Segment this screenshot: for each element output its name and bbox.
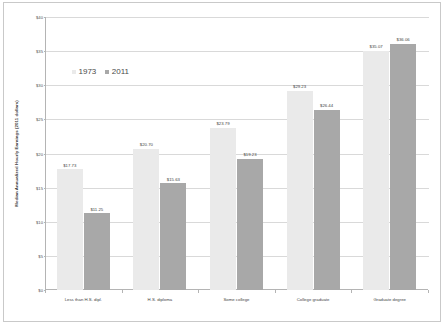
bar-groups: $17.73$11.25Less than H.S. dipl.$20.70$1… — [45, 17, 428, 290]
x-axis-tick-mark — [275, 290, 276, 293]
bar-1973[interactable] — [363, 51, 389, 290]
x-axis-tick-mark — [45, 290, 46, 293]
bar-1973[interactable] — [133, 149, 159, 290]
x-axis-category-label: College graduate — [275, 297, 352, 302]
bar-1973[interactable] — [57, 169, 83, 290]
x-axis-category-label: Some college — [198, 297, 275, 302]
y-axis-tick-label: $40 — [36, 15, 43, 20]
x-axis-category-label: Less than H.S. dipl. — [45, 297, 122, 302]
y-axis-tick-label: $10 — [36, 219, 43, 224]
bar-1973[interactable] — [210, 128, 236, 290]
y-axis-title: Median Annualized Hourly Earnings (2011 … — [14, 59, 19, 249]
bar-pair: $35.07$36.06 — [351, 17, 428, 290]
bar-column: $36.06 — [390, 17, 416, 290]
bar-value-label: $17.73 — [63, 163, 76, 168]
bar-2011[interactable] — [160, 183, 186, 290]
bar-pair: $20.70$15.63 — [122, 17, 199, 290]
bar-value-label: $29.23 — [293, 84, 306, 89]
y-axis-tick-label: $25 — [36, 117, 43, 122]
y-axis-tick-label: $15 — [36, 185, 43, 190]
bar-column: $35.07 — [363, 17, 389, 290]
bar-column: $20.70 — [133, 17, 159, 290]
bar-value-label: $26.44 — [320, 103, 333, 108]
bar-value-label: $23.79 — [216, 121, 229, 126]
bar-1973[interactable] — [287, 91, 313, 290]
legend-item-1973[interactable]: 1973 — [72, 67, 96, 76]
bar-group: $17.73$11.25Less than H.S. dipl. — [45, 17, 122, 290]
y-axis-tick-label: $0 — [38, 288, 43, 293]
bar-2011[interactable] — [237, 159, 263, 290]
legend-swatch-icon — [72, 70, 76, 74]
bar-2011[interactable] — [84, 213, 110, 290]
bar-column: $26.44 — [314, 17, 340, 290]
y-axis-tick-label: $5 — [38, 253, 43, 258]
bar-group: $20.70$15.63H.S. diploma — [122, 17, 199, 290]
y-axis-tick-label: $20 — [36, 151, 43, 156]
bar-group: $35.07$36.06Graduate degree — [351, 17, 428, 290]
x-axis-tick-mark — [122, 290, 123, 293]
legend-swatch-icon — [105, 70, 109, 74]
legend-item-2011[interactable]: 2011 — [105, 67, 129, 76]
bar-column: $23.79 — [210, 17, 236, 290]
legend-label: 2011 — [112, 67, 129, 76]
bar-2011[interactable] — [390, 44, 416, 290]
bar-column: $17.73 — [57, 17, 83, 290]
x-axis-category-label: H.S. diploma — [122, 297, 199, 302]
chart-container: Median Annualized Hourly Earnings (2011 … — [0, 0, 445, 325]
bar-value-label: $19.23 — [243, 152, 256, 157]
bar-column: $29.23 — [287, 17, 313, 290]
bar-column: $19.23 — [237, 17, 263, 290]
chart-legend: 19732011 — [72, 67, 129, 76]
bar-group: $29.23$26.44College graduate — [275, 17, 352, 290]
bar-value-label: $11.25 — [90, 207, 103, 212]
legend-label: 1973 — [79, 67, 97, 76]
bar-2011[interactable] — [314, 110, 340, 290]
bar-value-label: $15.63 — [167, 177, 180, 182]
bar-group: $23.79$19.23Some college — [198, 17, 275, 290]
bar-value-label: $20.70 — [140, 142, 153, 147]
x-axis-category-label: Graduate degree — [351, 297, 428, 302]
chart-frame: Median Annualized Hourly Earnings (2011 … — [3, 2, 441, 322]
bar-value-label: $36.06 — [397, 37, 410, 42]
bar-pair: $23.79$19.23 — [198, 17, 275, 290]
bar-column: $11.25 — [84, 17, 110, 290]
x-axis-tick-mark — [428, 290, 429, 293]
x-axis-tick-mark — [351, 290, 352, 293]
y-axis-tick-label: $30 — [36, 83, 43, 88]
bar-pair: $17.73$11.25 — [45, 17, 122, 290]
bar-pair: $29.23$26.44 — [275, 17, 352, 290]
y-axis-tick-label: $35 — [36, 49, 43, 54]
bar-column: $15.63 — [160, 17, 186, 290]
bar-value-label: $35.07 — [370, 44, 383, 49]
x-axis-tick-mark — [198, 290, 199, 293]
